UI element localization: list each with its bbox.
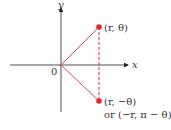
lower-point-label: (r, −θ) bbox=[104, 96, 136, 107]
upper-point bbox=[96, 24, 102, 30]
ray-to-upper-point bbox=[61, 27, 99, 65]
ray-to-lower-point bbox=[61, 65, 99, 101]
upper-point-label: (r, θ) bbox=[104, 22, 128, 33]
lower-point-alt-label: or (−r, π − θ) bbox=[104, 109, 171, 120]
polar-symmetry-diagram: y x 0 (r, θ) (r, −θ) or (−r, π − θ) bbox=[0, 0, 171, 130]
x-axis-label: x bbox=[132, 59, 138, 70]
origin-label: 0 bbox=[51, 66, 57, 77]
lower-point bbox=[96, 98, 102, 104]
y-axis-label: y bbox=[57, 0, 64, 10]
